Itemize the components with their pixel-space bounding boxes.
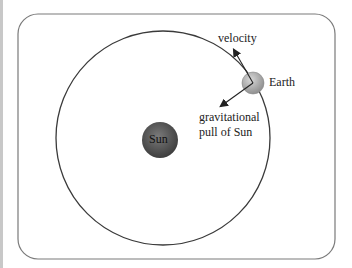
orbit-diagram xyxy=(0,0,352,268)
earth-label: Earth xyxy=(269,76,295,89)
sun-label: Sun xyxy=(149,133,168,146)
gravity-arrow xyxy=(221,83,253,106)
gravity-label-line2: pull of Sun xyxy=(199,126,252,139)
velocity-label: velocity xyxy=(218,32,257,45)
gravity-label-line1: gravitational xyxy=(199,111,260,124)
